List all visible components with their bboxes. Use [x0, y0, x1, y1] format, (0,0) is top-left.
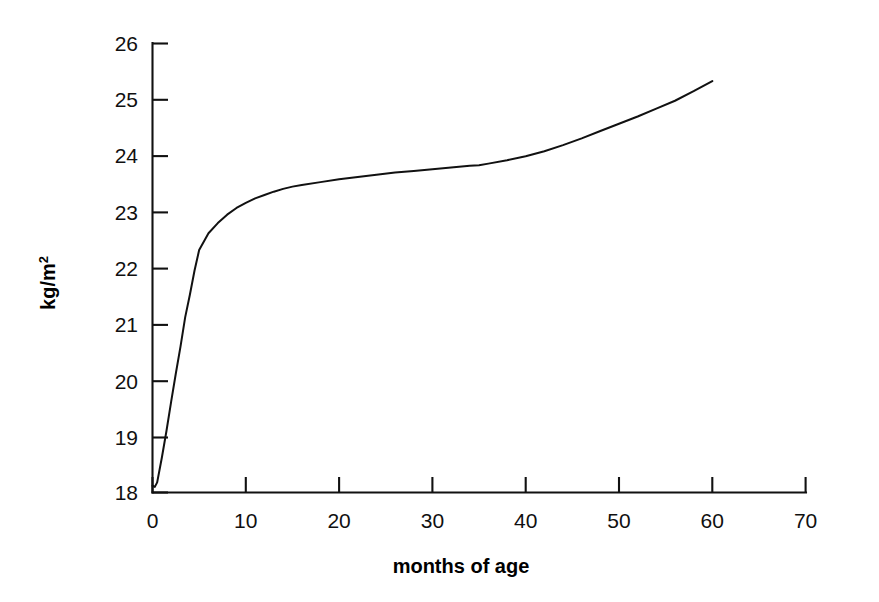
x-axis-title: months of age	[393, 555, 530, 577]
x-tick-label-60: 60	[701, 509, 724, 532]
chart-axes	[153, 43, 807, 493]
y-axis-ticks	[153, 44, 169, 493]
y-axis-title: kg/m2	[36, 256, 59, 310]
bmi-curve	[153, 81, 713, 487]
x-tick-label-20: 20	[327, 509, 350, 532]
y-axis-tick-labels: 26 25 24 23 22 21 20 19 18	[115, 32, 139, 504]
y-tick-label-19: 19	[115, 426, 138, 449]
y-tick-label-25: 25	[115, 88, 138, 111]
x-tick-label-0: 0	[147, 509, 159, 532]
y-axis-title-superscript: 2	[36, 256, 51, 263]
y-tick-label-18: 18	[115, 481, 138, 504]
y-tick-label-21: 21	[115, 313, 138, 336]
x-axis-ticks	[153, 477, 806, 493]
y-tick-label-22: 22	[115, 257, 138, 280]
chart-canvas: 26 25 24 23 22 21 20 19 18 0 10 20 30 40…	[0, 0, 879, 602]
x-axis-tick-labels: 0 10 20 30 40 50 60 70	[147, 509, 818, 532]
y-axis-title-text: kg/m2	[36, 256, 59, 310]
x-tick-label-70: 70	[794, 509, 817, 532]
x-axis-title-text: months of age	[393, 555, 530, 577]
y-tick-label-20: 20	[115, 370, 138, 393]
x-tick-label-40: 40	[514, 509, 537, 532]
x-tick-label-10: 10	[234, 509, 257, 532]
bmi-growth-chart-figure: 26 25 24 23 22 21 20 19 18 0 10 20 30 40…	[0, 0, 879, 602]
x-tick-label-50: 50	[607, 509, 630, 532]
y-tick-label-24: 24	[115, 144, 139, 167]
y-tick-label-26: 26	[115, 32, 138, 55]
y-tick-label-23: 23	[115, 201, 138, 224]
x-tick-label-30: 30	[421, 509, 444, 532]
y-axis-title-base: kg/m	[37, 263, 59, 310]
